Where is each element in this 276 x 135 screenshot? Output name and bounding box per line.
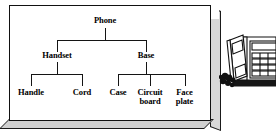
node-circuit-board: Circuit board — [132, 88, 168, 106]
node-face-plate-line2: plate — [176, 96, 193, 106]
node-cord: Cord — [60, 88, 104, 98]
desk-telephone-illustration — [219, 28, 276, 96]
connector-faceplate-drop — [185, 74, 186, 86]
connector-handset-bar — [31, 74, 83, 75]
node-face-plate: Face plate — [168, 88, 201, 106]
node-handle: Handle — [8, 88, 54, 98]
connector-handle-drop — [31, 74, 32, 86]
figure-canvas: Phone Handset Base Handle Cord Case Circ… — [0, 0, 276, 135]
connector-handset-stem — [57, 62, 58, 74]
node-base: Base — [121, 51, 171, 61]
node-circuit-board-line2: board — [139, 96, 160, 106]
node-case: Case — [100, 88, 136, 98]
connector-base-stem — [146, 62, 147, 74]
connector-case-drop — [118, 74, 119, 86]
connector-level1-bar — [57, 40, 147, 41]
connector-cord-drop — [82, 74, 83, 86]
connector-circuitboard-drop — [150, 74, 151, 86]
node-phone: Phone — [80, 16, 130, 26]
node-handset: Handset — [32, 51, 82, 61]
connector-base-bar — [118, 74, 186, 75]
connector-root-stem — [105, 28, 106, 40]
